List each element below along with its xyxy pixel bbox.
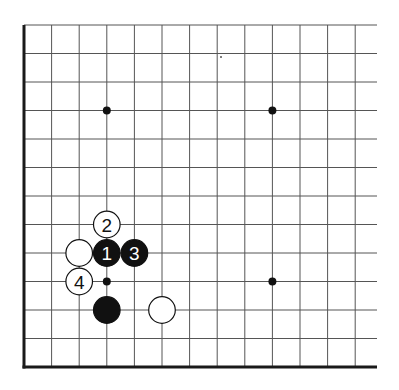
go-board: 2134 (0, 0, 399, 390)
star-point (268, 278, 276, 286)
black-stone: 3 (121, 240, 148, 267)
speck-mark (220, 56, 222, 58)
stone-circle (149, 297, 176, 324)
stone-circle (66, 240, 93, 267)
white-stone (149, 297, 176, 324)
white-stone: 2 (94, 211, 121, 238)
move-number: 4 (74, 272, 85, 293)
white-stone: 4 (66, 268, 93, 295)
black-stone (94, 297, 121, 324)
white-stone (66, 240, 93, 267)
board-grid (23, 25, 378, 369)
black-stone: 1 (94, 240, 121, 267)
move-number: 1 (102, 243, 113, 264)
move-number: 2 (102, 215, 113, 236)
star-point (103, 278, 111, 286)
move-number: 3 (129, 243, 140, 264)
star-point (103, 107, 111, 115)
star-point (268, 107, 276, 115)
stones: 2134 (66, 211, 175, 323)
stone-circle (94, 297, 121, 324)
